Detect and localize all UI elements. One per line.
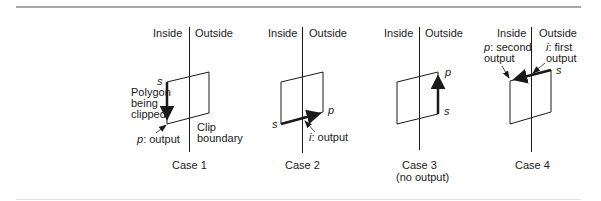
p-label: p: [444, 66, 451, 78]
first-output-label-2: output: [546, 52, 577, 64]
s-label: s: [556, 64, 562, 76]
case-1: Inside Outside s Polygon being clipped p…: [131, 27, 243, 171]
edge-arrow: [281, 114, 318, 124]
edge-arrow: [516, 70, 551, 79]
outside-label: Outside: [539, 27, 577, 39]
outside-label: Outside: [195, 27, 233, 39]
output-label: p: output: [136, 133, 180, 145]
clipping-diagram: Inside Outside s Polygon being clipped p…: [0, 0, 601, 201]
polygon-label-3: clipped: [131, 108, 166, 120]
case-4: Inside Outside s p: second output i: fir…: [483, 27, 577, 171]
polygon-shape: [397, 72, 438, 124]
s-label: s: [272, 118, 278, 130]
case-3: Inside Outside p s Case 3 (no output): [384, 27, 463, 183]
outside-label: Outside: [425, 27, 463, 39]
case-subtitle: (no output): [396, 171, 449, 183]
case-title: Case 1: [172, 159, 207, 171]
inside-label: Inside: [497, 27, 526, 39]
case-title: Case 3: [402, 159, 437, 171]
inside-label: Inside: [268, 27, 297, 39]
clip-label-2: boundary: [197, 132, 243, 144]
inside-label: Inside: [384, 27, 413, 39]
pointer-arrow: [156, 125, 166, 133]
output-label: i: output: [309, 131, 348, 143]
case-2: Inside Outside s p i: output Case 2: [268, 27, 348, 171]
inside-label: Inside: [153, 27, 182, 39]
second-output-label-2: output: [484, 52, 515, 64]
case-title: Case 2: [285, 159, 320, 171]
s-label: s: [444, 105, 450, 117]
case-title: Case 4: [515, 159, 550, 171]
p-label: p: [327, 104, 334, 116]
outside-label: Outside: [309, 27, 347, 39]
pointer-arrow: [502, 66, 509, 78]
polygon-shape: [167, 72, 209, 124]
